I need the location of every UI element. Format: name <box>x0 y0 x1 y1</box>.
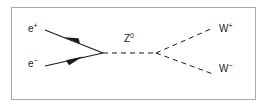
w-minus-label: W− <box>219 64 233 74</box>
z-boson-label-charge: 0 <box>130 32 134 39</box>
w-minus-line <box>156 53 213 74</box>
w-plus-label: W+ <box>219 24 233 34</box>
w-minus-label-charge: − <box>228 62 232 69</box>
feynman-diagram-figure: e+ e− Z0 W+ W− <box>0 0 267 109</box>
electron-label-charge: − <box>34 57 38 64</box>
positron-label-charge: + <box>34 22 38 29</box>
w-plus-line <box>156 28 213 53</box>
z-boson-label: Z0 <box>124 34 134 44</box>
w-plus-label-charge: + <box>228 22 232 29</box>
diagram-canvas <box>0 0 267 109</box>
electron-arrowhead <box>66 57 83 66</box>
positron-line <box>45 30 103 53</box>
electron-label: e− <box>28 59 38 69</box>
positron-label: e+ <box>28 24 38 34</box>
